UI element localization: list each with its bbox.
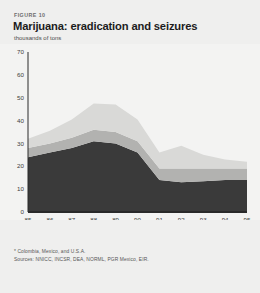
y-tick-0: 0 (21, 208, 25, 215)
figure-number: FIGURE 10 (14, 12, 45, 18)
x-tick-93: 93 (200, 216, 207, 220)
y-tick-10: 10 (17, 185, 24, 192)
y-tick-40: 40 (17, 117, 24, 124)
y-tick-50: 50 (17, 94, 24, 101)
y-tick-70: 70 (17, 48, 24, 55)
x-tick-89: 89 (112, 216, 119, 220)
x-tick-90: 90 (134, 216, 141, 220)
y-tick-30: 30 (17, 140, 24, 147)
x-tick-88: 88 (90, 216, 97, 220)
footnote: * Colombia, Mexico, and U.S.A. (14, 249, 86, 254)
source-note: Sources: NNICC, INCSR, DEA, NORML, PGR M… (14, 257, 149, 262)
y-tick-60: 60 (17, 71, 24, 78)
x-tick-87: 87 (68, 216, 75, 220)
x-tick-91: 91 (156, 216, 163, 220)
x-tick-85: 85 (25, 216, 32, 220)
stacked-area-chart: 010203040506070 8586878889909192939495 (0, 44, 260, 220)
page-title: Marijuana: eradication and seizures (13, 20, 197, 32)
x-tick-95: 95 (244, 216, 251, 220)
figure-subtitle: thousands of tons (14, 35, 61, 41)
chart-legend (26, 230, 241, 242)
x-tick-94: 94 (222, 216, 229, 220)
chart-plot-area: 010203040506070 8586878889909192939495 (0, 44, 260, 220)
figure-panel: FIGURE 10 Marijuana: eradication and sei… (0, 0, 260, 293)
y-tick-20: 20 (17, 162, 24, 169)
x-tick-86: 86 (46, 216, 53, 220)
x-tick-92: 92 (178, 216, 185, 220)
